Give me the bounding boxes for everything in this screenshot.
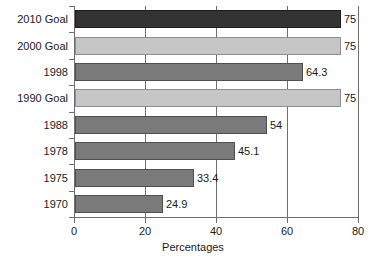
category-label: 2000 Goal — [0, 40, 68, 52]
bar-value-label: 33.4 — [197, 172, 218, 184]
x-tick-label: 0 — [59, 225, 89, 237]
x-axis-tick — [216, 218, 217, 223]
y-axis-tick — [69, 138, 74, 139]
x-tick-label: 20 — [130, 225, 160, 237]
bar — [75, 63, 303, 81]
x-axis-tick — [287, 218, 288, 223]
x-tick-label: 80 — [343, 225, 373, 237]
bar — [75, 10, 341, 28]
x-axis-title: Percentages — [0, 241, 376, 253]
bar — [75, 169, 194, 187]
category-label: 1978 — [0, 145, 68, 157]
y-axis-tick — [69, 85, 74, 86]
category-label: 1975 — [0, 172, 68, 184]
category-label: 2010 Goal — [0, 13, 68, 25]
bar-value-label: 64.3 — [306, 66, 327, 78]
x-axis-tick — [358, 218, 359, 223]
category-label: 1990 Goal — [0, 92, 68, 104]
x-tick-label: 40 — [201, 225, 231, 237]
bar-value-label: 75 — [344, 92, 356, 104]
x-axis-tick — [145, 218, 146, 223]
y-axis-tick — [69, 164, 74, 165]
category-label: 1988 — [0, 119, 68, 131]
x-axis-title-text: Percentages — [162, 241, 224, 253]
bar-chart: 757564.3755445.133.424.9 2010 Goal2000 G… — [0, 0, 376, 262]
category-label: 1998 — [0, 66, 68, 78]
bar — [75, 89, 341, 107]
bar — [75, 142, 235, 160]
y-axis-tick — [69, 6, 74, 7]
bar-value-label: 54 — [270, 119, 282, 131]
bar-value-label: 75 — [344, 13, 356, 25]
right-axis-line — [358, 6, 359, 218]
bar — [75, 116, 267, 134]
x-axis-tick — [74, 218, 75, 223]
category-label: 1970 — [0, 198, 68, 210]
bar — [75, 195, 163, 213]
bar-value-label: 24.9 — [166, 198, 187, 210]
y-axis-tick — [69, 191, 74, 192]
bar-value-label: 45.1 — [238, 145, 259, 157]
y-axis-tick — [69, 112, 74, 113]
bar-value-label: 75 — [344, 40, 356, 52]
y-axis-tick — [69, 59, 74, 60]
x-tick-label: 60 — [272, 225, 302, 237]
y-axis-tick — [69, 32, 74, 33]
bar — [75, 37, 341, 55]
